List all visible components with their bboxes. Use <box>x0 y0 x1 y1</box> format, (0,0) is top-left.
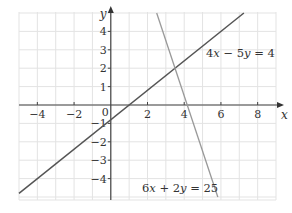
y-axis-arrow-icon <box>108 6 114 13</box>
x-tick-label: 2 <box>144 108 151 121</box>
equation-part: = 4 <box>251 46 275 60</box>
equation-label-2: 6x + 2y = 25 <box>142 181 218 195</box>
equation-part: = 25 <box>187 181 219 195</box>
x-tick-label: −2 <box>66 108 82 121</box>
chart: −4−22468−4−3−2−11234 x y 0 4x − 5y = 4 6… <box>0 0 292 213</box>
x-axis-label: x <box>281 108 288 122</box>
equation-label-1: 4x − 5y = 4 <box>206 46 275 60</box>
y-tick-label: 4 <box>100 25 107 38</box>
y-tick-label: −4 <box>91 173 107 186</box>
x-tick-label: 8 <box>254 108 261 121</box>
equation-part: − 5 <box>220 46 244 60</box>
x-tick-label: 4 <box>181 108 188 121</box>
equation-part: + 2 <box>156 181 180 195</box>
grid <box>19 12 276 200</box>
origin-label: 0 <box>102 106 109 119</box>
y-tick-label: −3 <box>91 154 107 167</box>
x-tick-label: 6 <box>217 108 224 121</box>
equation-part: 6 <box>142 181 149 195</box>
axes <box>19 6 284 200</box>
equation-part: 4 <box>206 46 213 60</box>
y-tick-label: 3 <box>100 44 107 57</box>
series-line-1 <box>19 13 244 193</box>
y-tick-label: 1 <box>100 81 107 94</box>
y-tick-label: −1 <box>91 117 107 130</box>
y-tick-label: −2 <box>91 136 107 149</box>
y-tick-label: 2 <box>100 62 107 75</box>
y-axis-label: y <box>99 7 107 21</box>
x-tick-label: −4 <box>29 108 45 121</box>
